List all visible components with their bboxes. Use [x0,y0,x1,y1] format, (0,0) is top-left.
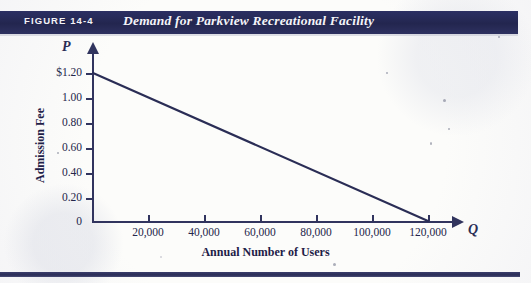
scan-speckle [57,152,59,154]
scan-speckle [498,36,500,38]
demand-curve [0,0,531,283]
figure-page: FIGURE 14-4 Demand for Parkview Recreati… [0,0,531,283]
scan-speckle [443,99,446,102]
scan-speckle [430,142,432,145]
figure-footer-rule [0,272,520,277]
x-axis-title: Annual Number of Users [0,245,531,260]
scan-speckle [386,72,388,74]
y-axis-title: Admission Fee [33,86,48,206]
scan-speckle [448,128,450,130]
scan-speckle [160,256,162,258]
chart-plot-area: P Q $1.20 1.00 0.80 0.60 0.40 0.20 0 20,… [0,0,531,283]
scan-speckle [333,263,336,266]
